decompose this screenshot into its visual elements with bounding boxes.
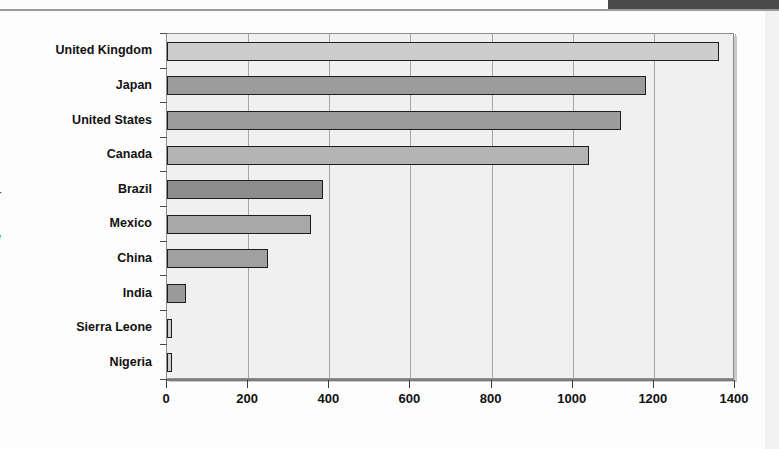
gridline bbox=[654, 34, 655, 378]
y-axis-tick bbox=[160, 137, 167, 138]
y-axis-tick bbox=[160, 379, 167, 380]
x-axis-tick bbox=[491, 380, 492, 388]
x-axis-tick-label: 1200 bbox=[638, 391, 667, 406]
y-axis-tick bbox=[160, 171, 167, 172]
y-axis-tick bbox=[160, 310, 167, 311]
y-axis-tick bbox=[160, 206, 167, 207]
page-right-gutter bbox=[765, 11, 779, 449]
bar bbox=[167, 319, 172, 338]
x-axis-tick-label: 400 bbox=[317, 391, 339, 406]
x-axis-tick bbox=[572, 380, 573, 388]
bar-chart: United KingdomJapanUnited StatesCanadaBr… bbox=[0, 14, 765, 434]
y-axis-tick bbox=[160, 275, 167, 276]
category-label: Nigeria bbox=[110, 355, 152, 369]
x-axis-tick-label: 800 bbox=[480, 391, 502, 406]
bar bbox=[167, 353, 172, 372]
x-axis-tick bbox=[328, 380, 329, 388]
figure-page: r d United KingdomJapanUnited StatesCana… bbox=[0, 0, 779, 449]
category-label: United Kingdom bbox=[55, 43, 152, 57]
category-label: United States bbox=[72, 113, 152, 127]
y-axis-tick bbox=[160, 241, 167, 242]
x-axis-tick bbox=[653, 380, 654, 388]
category-label: Canada bbox=[107, 147, 152, 161]
category-label: Sierra Leone bbox=[76, 320, 152, 334]
category-axis-labels: United KingdomJapanUnited StatesCanadaBr… bbox=[0, 14, 160, 434]
bar bbox=[167, 284, 186, 303]
plot-shadow-right bbox=[734, 36, 737, 382]
x-axis-tick bbox=[734, 380, 735, 388]
bar bbox=[167, 76, 646, 95]
bar bbox=[167, 215, 311, 234]
category-label: Mexico bbox=[110, 216, 152, 230]
y-axis-tick bbox=[160, 102, 167, 103]
category-label: China bbox=[117, 251, 152, 265]
category-label: Brazil bbox=[118, 182, 152, 196]
y-axis-tick bbox=[160, 68, 167, 69]
y-axis-tick bbox=[160, 344, 167, 345]
page-top-rule bbox=[0, 9, 779, 11]
x-axis-tick-label: 1000 bbox=[557, 391, 586, 406]
bar bbox=[167, 180, 323, 199]
x-axis-tick bbox=[247, 380, 248, 388]
bar bbox=[167, 146, 589, 165]
x-axis-tick-label: 0 bbox=[162, 391, 169, 406]
bar bbox=[167, 42, 719, 61]
x-axis-tick-label: 200 bbox=[236, 391, 258, 406]
x-axis-line bbox=[166, 379, 734, 381]
x-axis-tick bbox=[409, 380, 410, 388]
bar bbox=[167, 249, 268, 268]
category-label: India bbox=[123, 286, 152, 300]
plot-area bbox=[166, 33, 734, 379]
x-axis-tick-label: 1400 bbox=[720, 391, 749, 406]
x-axis-tick bbox=[166, 380, 167, 388]
bar bbox=[167, 111, 621, 130]
x-axis-tick-label: 600 bbox=[399, 391, 421, 406]
category-label: Japan bbox=[116, 78, 152, 92]
y-axis-tick bbox=[160, 33, 167, 34]
